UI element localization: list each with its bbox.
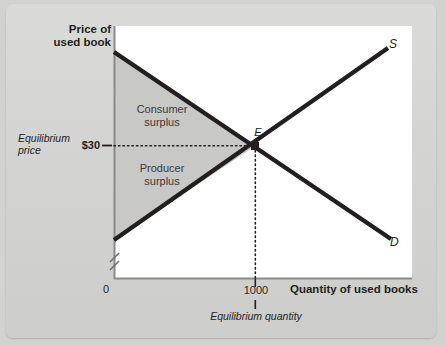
y-axis-break-icon — [110, 252, 119, 272]
y-axis-title-line2: used book — [43, 36, 111, 49]
y-axis-title-line1: Price of — [59, 23, 111, 36]
y-axis-tick-value: $30 — [74, 139, 100, 151]
consumer-surplus-label-line2: surplus — [124, 116, 200, 128]
equilibrium-quantity-caption: Equilibrium quantity — [190, 311, 322, 323]
figure-root: Price of used book Equilibrium price $30… — [0, 0, 446, 346]
demand-curve-label: D — [390, 236, 406, 249]
producer-surplus-label-line1: Producer — [124, 162, 200, 174]
x-axis-title: Quantity of used books — [290, 283, 440, 296]
x-axis-tick-value: 1000 — [235, 284, 277, 296]
consumer-surplus-label-line1: Consumer — [124, 103, 200, 115]
equilibrium-point-label: E — [249, 126, 267, 138]
producer-surplus-label-line2: surplus — [124, 175, 200, 187]
equilibrium-point-marker — [251, 142, 259, 150]
supply-curve-label: S — [389, 38, 405, 51]
origin-label: 0 — [99, 283, 113, 295]
